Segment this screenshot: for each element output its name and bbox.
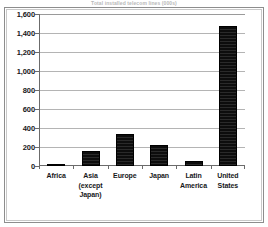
x-axis-ticks bbox=[39, 166, 245, 170]
y-tick-label: 1,600 bbox=[17, 10, 35, 19]
x-tick-mark bbox=[108, 166, 109, 169]
chart-title: Total installed telecom lines (000s) bbox=[0, 0, 268, 7]
x-tick-mark bbox=[244, 166, 245, 169]
x-tick-mark bbox=[73, 166, 74, 169]
x-category-label-line: Japan) bbox=[68, 190, 112, 200]
y-tick-label: 400 bbox=[23, 124, 35, 133]
y-axis-labels: 1,6001,4001,2001,0008006004002000 bbox=[5, 14, 37, 166]
x-axis-labels: AfricaAsia(exceptJapan)EuropeJapanLatinA… bbox=[39, 171, 245, 215]
y-tick-label: 1,000 bbox=[17, 67, 35, 76]
x-category-label-line: States bbox=[206, 181, 250, 191]
y-tick-label: 800 bbox=[23, 86, 35, 95]
bar bbox=[82, 151, 100, 166]
figure-frame: 1,6001,4001,2001,0008006004002000 Africa… bbox=[4, 7, 264, 223]
y-tick-label: 1,400 bbox=[17, 29, 35, 38]
bar-chart: 1,6001,4001,2001,0008006004002000 Africa… bbox=[5, 8, 265, 224]
x-category-label-line: (except bbox=[68, 181, 112, 191]
y-tick-label: 600 bbox=[23, 105, 35, 114]
bar bbox=[116, 134, 134, 166]
x-tick-mark bbox=[176, 166, 177, 169]
bar bbox=[150, 145, 168, 166]
x-tick-mark bbox=[39, 166, 40, 169]
x-tick-mark bbox=[142, 166, 143, 169]
bar bbox=[219, 26, 237, 166]
bars-layer bbox=[39, 14, 245, 166]
y-tick-label: 200 bbox=[23, 143, 35, 152]
x-category-label: UnitedStates bbox=[206, 171, 250, 190]
y-tick-label: 1,200 bbox=[17, 48, 35, 57]
x-tick-mark bbox=[211, 166, 212, 169]
x-category-label-line: United bbox=[206, 171, 250, 181]
